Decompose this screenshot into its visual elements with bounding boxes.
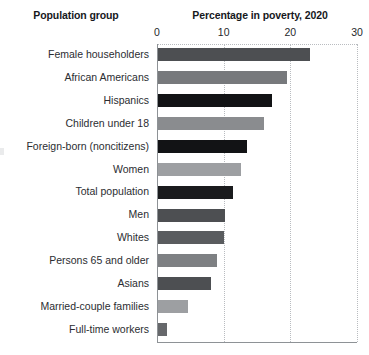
bar-row <box>157 136 357 159</box>
x-tick-30: 30 <box>342 26 369 38</box>
bar <box>157 48 310 61</box>
bar-row <box>157 159 357 182</box>
category-label: African Americans <box>0 71 157 83</box>
bar-row <box>157 67 357 90</box>
category-label: Women <box>0 163 157 175</box>
bar <box>157 117 264 130</box>
value-column-header: Percentage in poverty, 2020 <box>160 9 360 21</box>
bar-row <box>157 90 357 113</box>
bar <box>157 94 272 107</box>
category-column-header: Population group <box>0 9 152 21</box>
category-label: Whites <box>0 231 157 243</box>
bar <box>157 254 217 267</box>
y-axis-line <box>157 44 158 342</box>
bar <box>157 300 188 313</box>
category-label: Female householders <box>0 48 157 60</box>
x-tick-0: 0 <box>142 26 172 38</box>
category-label: Married-couple families <box>0 300 157 312</box>
bar <box>157 71 287 84</box>
bar-row <box>157 296 357 319</box>
category-label: Men <box>0 208 157 220</box>
bar-row <box>157 204 357 227</box>
x-tick-20: 20 <box>275 26 305 38</box>
bar-row <box>157 227 357 250</box>
plot-area <box>157 44 357 342</box>
bar-row <box>157 44 357 67</box>
category-label: Children under 18 <box>0 117 157 129</box>
bar <box>157 209 225 222</box>
category-label: Full-time workers <box>0 323 157 335</box>
x-axis-baseline <box>157 342 357 343</box>
category-label: Asians <box>0 277 157 289</box>
category-label: Persons 65 and older <box>0 254 157 266</box>
poverty-bar-chart: Population group Percentage in poverty, … <box>0 0 369 355</box>
bar <box>157 231 224 244</box>
bar <box>157 277 211 290</box>
bar-row <box>157 273 357 296</box>
bar-row <box>157 181 357 204</box>
category-label: Foreign-born (noncitizens) <box>0 140 157 152</box>
bar <box>157 323 167 336</box>
category-label: Total population <box>0 185 157 197</box>
category-label: Hispanics <box>0 94 157 106</box>
bar <box>157 140 247 153</box>
gridline-30 <box>357 44 358 342</box>
bar <box>157 163 241 176</box>
bar-row <box>157 250 357 273</box>
bar-row <box>157 113 357 136</box>
x-tick-10: 10 <box>209 26 239 38</box>
bar <box>157 186 233 199</box>
bar-row <box>157 319 357 342</box>
